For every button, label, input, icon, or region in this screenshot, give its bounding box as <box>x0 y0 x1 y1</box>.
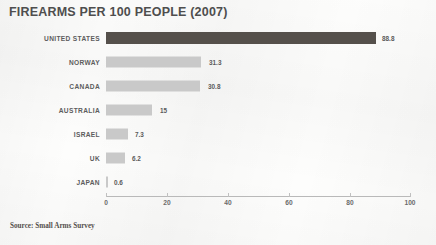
x-axis-tick <box>410 193 411 197</box>
plot-area: UNITED STATES 88.8 NORWAY 31.3 CANADA 30… <box>0 26 436 198</box>
bar-norway[interactable] <box>106 57 201 68</box>
x-axis-tick <box>289 193 290 197</box>
bar-value-label: 15 <box>160 107 167 114</box>
bar-row: JAPAN 0.6 <box>0 170 436 194</box>
bar-value-label: 30.8 <box>208 83 220 90</box>
category-label: JAPAN <box>76 179 100 186</box>
x-axis-tick-label: 100 <box>404 199 415 206</box>
bar-row: UK 6.2 <box>0 146 436 170</box>
bar-value-label: 31.3 <box>209 59 221 66</box>
bar-row: ISRAEL 7.3 <box>0 122 436 146</box>
x-axis-tick-label: 20 <box>163 199 170 206</box>
bar-row: AUSTRALIA 15 <box>0 98 436 122</box>
bar-value-label: 0.6 <box>114 179 123 186</box>
bar-value-label: 7.3 <box>135 131 144 138</box>
bar-value-label: 88.8 <box>382 35 394 42</box>
x-axis-tick-label: 40 <box>224 199 231 206</box>
bar-united-states[interactable] <box>106 32 376 44</box>
category-label: UK <box>90 155 100 162</box>
x-axis-tick-label: 80 <box>346 199 353 206</box>
chart-page: FIREARMS PER 100 PEOPLE (2007) UNITED ST… <box>0 0 436 245</box>
x-axis-tick-label: 60 <box>285 199 292 206</box>
category-label: ISRAEL <box>74 131 100 138</box>
bar-japan[interactable] <box>106 177 108 188</box>
x-axis-tick <box>228 193 229 197</box>
bar-row: NORWAY 31.3 <box>0 50 436 74</box>
bar-row: CANADA 30.8 <box>0 74 436 98</box>
bar-australia[interactable] <box>106 105 152 116</box>
bar-row: UNITED STATES 88.8 <box>0 26 436 50</box>
x-axis-tick <box>167 193 168 197</box>
bar-uk[interactable] <box>106 153 125 164</box>
x-axis-line <box>106 196 411 197</box>
bar-value-label: 6.2 <box>132 155 141 162</box>
chart-title: FIREARMS PER 100 PEOPLE (2007) <box>9 5 228 19</box>
x-axis-tick <box>106 193 107 197</box>
bar-israel[interactable] <box>106 129 128 140</box>
x-axis-tick-label: 0 <box>104 199 108 206</box>
bar-canada[interactable] <box>106 81 200 92</box>
source-note: Source: Small Arms Survey <box>10 222 95 230</box>
x-axis-tick <box>350 193 351 197</box>
category-label: CANADA <box>69 83 100 90</box>
category-label: UNITED STATES <box>44 35 100 42</box>
category-label: NORWAY <box>69 59 100 66</box>
category-label: AUSTRALIA <box>59 107 100 114</box>
